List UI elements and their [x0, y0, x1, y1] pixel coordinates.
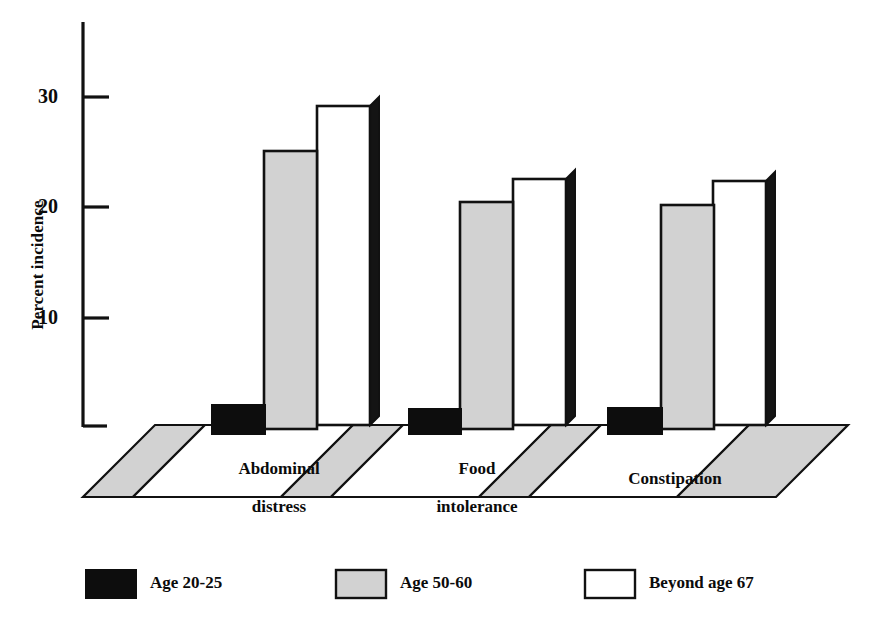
category-label-line: distress: [252, 497, 306, 516]
bar-age-20-25: [608, 408, 662, 434]
bar-group-abdominal-distress: [212, 97, 379, 434]
bar-group-constipation: [608, 172, 775, 434]
bar-age-50-60: [661, 205, 714, 429]
y-tick-label-30: 30: [12, 85, 58, 108]
legend-swatch-beyond-age-67: [585, 570, 635, 598]
y-axis: [83, 22, 109, 427]
bar-shadow-side: [566, 170, 575, 425]
bar-chart-figure: Percent incidence 30 20 10 Abdominal dis…: [0, 0, 874, 632]
bar-beyond-age-67: [317, 106, 370, 425]
bar-group-food-intolerance: [409, 170, 575, 434]
bar-shadow-side: [370, 97, 379, 425]
legend-label-age-20-25: Age 20-25: [150, 573, 222, 593]
legend-label-beyond-age-67: Beyond age 67: [649, 573, 754, 593]
bar-shadow-side: [766, 172, 775, 425]
y-tick-label-20: 20: [12, 195, 58, 218]
category-label-line: Constipation: [628, 469, 722, 488]
chart-canvas: [0, 0, 874, 632]
y-tick-label-10: 10: [12, 306, 58, 329]
legend-swatch-age-20-25: [86, 570, 136, 598]
bar-age-50-60: [264, 151, 317, 429]
category-label-abdominal-distress: Abdominal distress: [203, 440, 355, 516]
category-label-constipation: Constipation: [599, 450, 751, 488]
bar-age-20-25: [409, 409, 461, 434]
category-label-line: Abdominal: [238, 459, 319, 478]
bar-age-20-25: [212, 405, 265, 434]
category-label-food-intolerance: Food intolerance: [401, 440, 553, 516]
category-label-line: intolerance: [436, 497, 517, 516]
legend-label-age-50-60: Age 50-60: [400, 573, 472, 593]
legend-swatch-age-50-60: [336, 570, 386, 598]
category-label-line: Food: [459, 459, 496, 478]
bar-beyond-age-67: [513, 179, 566, 425]
bar-beyond-age-67: [713, 181, 766, 425]
bar-age-50-60: [460, 202, 513, 429]
